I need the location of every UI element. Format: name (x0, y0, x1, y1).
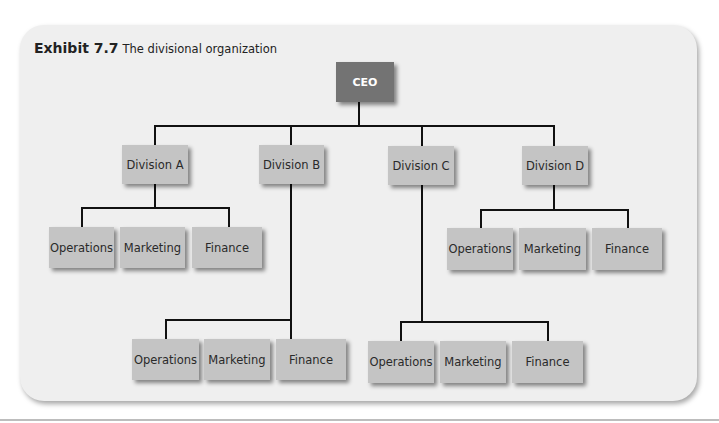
division-d-operations-box: Operations (447, 228, 513, 270)
division-c-operations-box: Operations (368, 341, 434, 383)
connector-c-down (421, 184, 423, 323)
division-b-finance-box: Finance (276, 339, 346, 380)
connector-to-division-b (290, 125, 292, 146)
division-b-operations-box: Operations (132, 339, 199, 380)
division-c-marketing-box: Marketing (440, 341, 506, 383)
division-a-finance-box: Finance (192, 227, 262, 268)
exhibit-title: Exhibit 7.7The divisional organization (34, 40, 277, 56)
division-d-finance-box: Finance (592, 228, 662, 270)
ceo-box: CEO (336, 62, 394, 102)
connector-a-bar (81, 207, 230, 209)
connector-d-right (627, 209, 629, 229)
division-c-box: Division C (388, 146, 454, 185)
division-b-marketing-box: Marketing (204, 339, 270, 380)
division-a-box: Division A (122, 145, 188, 184)
division-d-box: Division D (522, 146, 588, 185)
page-divider (0, 419, 719, 421)
exhibit-number: Exhibit 7.7 (34, 40, 119, 56)
division-b-box: Division B (259, 145, 324, 184)
connector-d-bar (480, 209, 629, 211)
connector-division-bar (154, 125, 555, 127)
connector-b-left (165, 319, 167, 340)
division-c-finance-box: Finance (512, 341, 583, 383)
connector-b-bar (165, 319, 292, 321)
connector-d-left (480, 209, 482, 229)
exhibit-caption: The divisional organization (123, 42, 277, 56)
connector-ceo-down (358, 102, 360, 127)
connector-a-down (154, 184, 156, 209)
connector-to-division-c (421, 125, 423, 146)
connector-c-left (400, 321, 402, 342)
connector-b-down (290, 184, 292, 321)
connector-b-right (290, 319, 292, 340)
connector-c-bar (400, 321, 549, 323)
division-a-operations-box: Operations (49, 227, 114, 268)
connector-to-division-a (154, 125, 156, 146)
division-a-marketing-box: Marketing (120, 227, 185, 268)
connector-a-left (81, 207, 83, 228)
connector-c-right (547, 321, 549, 342)
connector-a-right (228, 207, 230, 228)
connector-d-down (553, 185, 555, 211)
connector-to-division-d (553, 125, 555, 146)
division-d-marketing-box: Marketing (519, 228, 586, 270)
